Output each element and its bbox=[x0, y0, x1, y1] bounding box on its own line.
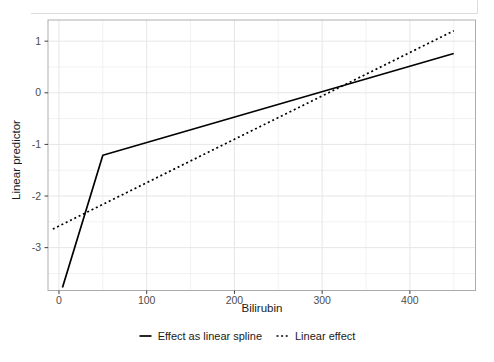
data-lines bbox=[53, 31, 454, 288]
y-axis-title: Linear predictor bbox=[10, 53, 24, 267]
legend-label-spline: Effect as linear spline bbox=[158, 330, 262, 342]
legend-key-dotted-line bbox=[276, 331, 289, 341]
legend-key-solid-line bbox=[139, 331, 152, 341]
gridlines-minor bbox=[48, 20, 476, 291]
legend-item-linear: Linear effect bbox=[276, 330, 355, 342]
window-edge-line bbox=[31, 0, 478, 14]
x-axis-title: Bilirubin bbox=[48, 302, 476, 314]
linear-spline-plot: 010020030040010-1-2-3 Bilirubin Linear p… bbox=[0, 0, 494, 362]
legend: Effect as linear spline Linear effect bbox=[0, 328, 494, 343]
y-tick-label: -1 bbox=[32, 138, 41, 150]
gridlines-major bbox=[48, 20, 476, 291]
y-tick-label: 0 bbox=[35, 86, 41, 98]
panel-border bbox=[48, 20, 476, 291]
y-tick-label: -2 bbox=[32, 190, 41, 202]
legend-item-spline: Effect as linear spline bbox=[139, 330, 262, 342]
y-tick-label: -3 bbox=[32, 241, 41, 253]
legend-label-linear: Linear effect bbox=[295, 330, 355, 342]
series-line-linear-effect bbox=[53, 31, 454, 229]
y-tick-label: 1 bbox=[35, 35, 41, 47]
